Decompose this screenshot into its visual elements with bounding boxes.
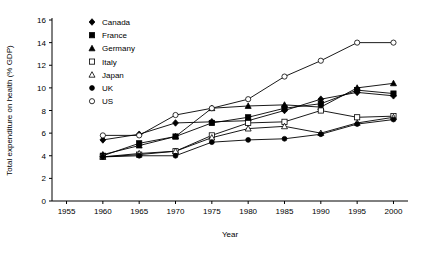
data-point-uk — [391, 117, 396, 122]
legend-label-france: France — [102, 31, 127, 40]
y-tick-label: 8 — [42, 107, 47, 116]
data-point-us — [282, 74, 287, 79]
data-point-us — [391, 40, 396, 45]
y-tick-label: 0 — [42, 197, 47, 206]
y-tick-label: 12 — [37, 61, 46, 70]
legend-marker-germany — [89, 45, 95, 51]
data-point-uk — [282, 136, 287, 141]
legend-label-uk: UK — [102, 84, 114, 93]
x-tick-label: 1960 — [94, 207, 112, 216]
data-point-france — [209, 120, 214, 125]
legend-marker-italy — [89, 59, 94, 64]
data-point-italy — [318, 108, 323, 113]
y-axis-title: Total expenditure on health (% GDP) — [5, 45, 14, 176]
legend-marker-france — [89, 33, 94, 38]
x-tick-label: 1980 — [239, 207, 257, 216]
data-point-germany — [390, 80, 396, 86]
line-chart: 0246810121416195519601965197019751980198… — [0, 0, 429, 257]
data-point-us — [246, 97, 251, 102]
x-tick-label: 2000 — [385, 207, 403, 216]
data-point-us — [209, 106, 214, 111]
data-point-us — [173, 112, 178, 117]
chart-container: 0246810121416195519601965197019751980198… — [0, 0, 429, 257]
data-point-uk — [100, 154, 105, 159]
legend-label-japan: Japan — [102, 71, 124, 80]
data-point-us — [137, 133, 142, 138]
legend-label-canada: Canada — [102, 18, 131, 27]
legend-marker-uk — [90, 86, 95, 91]
data-point-us — [100, 133, 105, 138]
data-point-us — [318, 58, 323, 63]
legend-marker-canada — [89, 19, 95, 26]
x-tick-label: 1995 — [348, 207, 366, 216]
data-point-uk — [355, 122, 360, 127]
legend-marker-japan — [89, 72, 95, 78]
data-point-uk — [173, 153, 178, 158]
legend-label-germany: Germany — [102, 44, 135, 53]
legend-marker-us — [89, 99, 94, 104]
data-point-uk — [137, 153, 142, 158]
legend-label-us: US — [102, 97, 113, 106]
x-tick-label: 1965 — [130, 207, 148, 216]
data-point-uk — [318, 132, 323, 137]
y-tick-label: 10 — [37, 84, 46, 93]
data-point-canada — [173, 120, 179, 127]
data-point-france — [391, 91, 396, 96]
y-tick-label: 6 — [42, 129, 47, 138]
y-tick-label: 2 — [42, 174, 47, 183]
x-tick-label: 1975 — [203, 207, 221, 216]
x-tick-label: 1990 — [312, 207, 330, 216]
y-tick-label: 16 — [37, 16, 46, 25]
x-tick-label: 1970 — [167, 207, 185, 216]
data-point-uk — [246, 138, 251, 143]
x-axis-title: Year — [222, 230, 239, 239]
data-point-uk — [209, 140, 214, 145]
legend-label-italy: Italy — [102, 58, 117, 67]
data-point-france — [246, 115, 251, 120]
y-tick-label: 14 — [37, 39, 46, 48]
y-tick-label: 4 — [42, 152, 47, 161]
x-tick-label: 1955 — [58, 207, 76, 216]
x-tick-label: 1985 — [276, 207, 294, 216]
data-point-us — [355, 40, 360, 45]
